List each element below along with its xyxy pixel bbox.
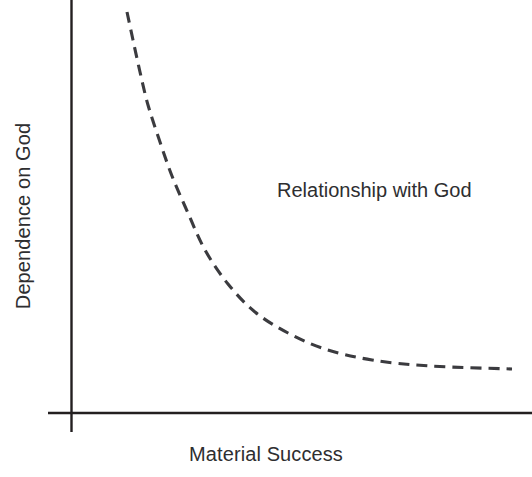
y-axis-label: Dependence on God xyxy=(12,123,35,309)
chart-figure: Dependence on God Material Success Relat… xyxy=(0,0,532,477)
chart-plot-area xyxy=(0,0,532,477)
y-axis-label-container: Dependence on God xyxy=(0,0,46,477)
x-axis-label: Material Success xyxy=(0,443,532,466)
curve-annotation-label: Relationship with God xyxy=(277,179,472,202)
